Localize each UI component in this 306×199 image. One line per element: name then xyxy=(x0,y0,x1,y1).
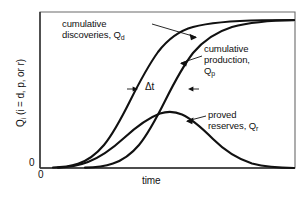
x-axis-origin-tick: 0 xyxy=(38,169,43,180)
chart-figure xyxy=(0,0,306,199)
annotation-production-line3: Qp xyxy=(204,65,250,77)
annotation-cumulative-production: cumulative production, Qp xyxy=(204,43,250,77)
annotation-delta-t: Δt xyxy=(145,81,154,92)
annotation-production-line1: cumulative xyxy=(204,43,250,54)
leader-production xyxy=(180,56,202,66)
series-cumulative-discoveries xyxy=(53,20,294,168)
series-proved-reserves xyxy=(58,112,294,168)
annotation-production-line2: production, xyxy=(204,54,250,65)
leader-discoveries xyxy=(152,24,197,40)
annotation-reserves-line2: reserves, Qr xyxy=(208,120,258,132)
annotation-proved-reserves: proved reserves, Qr xyxy=(208,109,258,132)
annotation-discoveries-line2: discoveries, Qd xyxy=(62,29,125,41)
y-axis-origin-tick: 0 xyxy=(29,157,34,168)
y-axis-label: Qi (i = d, p, or r) xyxy=(15,33,27,153)
annotation-cumulative-discoveries: cumulative discoveries, Qd xyxy=(62,18,125,41)
annotation-discoveries-line1: cumulative xyxy=(62,18,125,29)
annotation-reserves-line1: proved xyxy=(208,109,258,120)
x-axis-label: time xyxy=(142,175,161,186)
chart-svg xyxy=(0,0,306,199)
